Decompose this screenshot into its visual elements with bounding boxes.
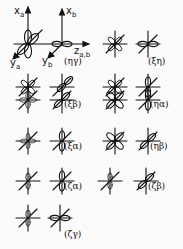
- panel-label: (ξα): [64, 142, 82, 151]
- panel-label: (ξβ): [64, 100, 81, 109]
- panel-label: (ηβ): [150, 142, 168, 151]
- panel-label: (ηγ): [64, 57, 82, 66]
- axis-label-yb: yb: [42, 56, 52, 70]
- panel-label: (ηα): [150, 100, 169, 109]
- panel-xi-eta: [103, 31, 160, 57]
- axis-label-xb: xb: [66, 6, 76, 20]
- axis-label-xa: xa: [14, 6, 24, 20]
- panel-label: (ζβ): [148, 182, 165, 191]
- panel-label: (ζα): [64, 182, 82, 191]
- panel-label: (ξη): [148, 57, 165, 66]
- orbital-overlap-diagram: [0, 0, 183, 249]
- axis-label-ya: ya: [10, 58, 20, 72]
- panel-zeta-gamma: [16, 205, 72, 231]
- panel-label: (ζγ): [64, 230, 81, 239]
